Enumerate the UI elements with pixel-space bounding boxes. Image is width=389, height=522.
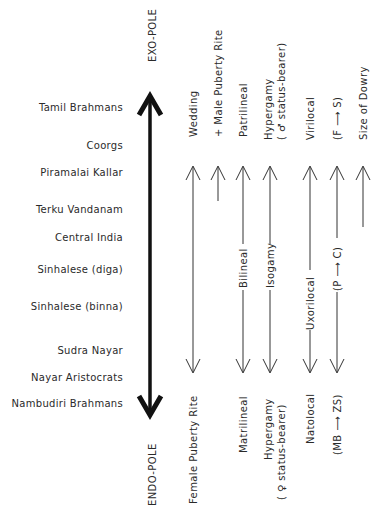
column-middle-label: Uxorilocal bbox=[305, 277, 316, 330]
column-top-label: + Male Puberty Rite bbox=[213, 29, 224, 137]
column-bottom-label: Natolocal bbox=[305, 393, 316, 444]
column-top-label: Virilocal bbox=[305, 97, 316, 140]
endo-pole-label: ENDO-POLE bbox=[147, 443, 158, 506]
column-wedding bbox=[186, 166, 200, 373]
column-bottom-label: Hypergamy bbox=[263, 398, 274, 460]
group-label: Central India bbox=[55, 232, 123, 243]
group-label: Sinhalese (diga) bbox=[37, 264, 123, 275]
group-labels: Tamil Brahmans Coorgs Piramalai Kallar T… bbox=[12, 102, 124, 409]
column-bottom-label: (MB ⟶ ZS) bbox=[332, 394, 343, 455]
exo-pole-label: EXO-POLE bbox=[147, 9, 158, 62]
column-top-sublabel: ( ♂ status-bearer) bbox=[276, 43, 287, 140]
column-top-label: Size of Dowry bbox=[358, 66, 369, 140]
column-residence bbox=[303, 166, 317, 373]
main-axis-arrow bbox=[139, 96, 161, 415]
group-label: Tamil Brahmans bbox=[38, 102, 123, 113]
group-label: Sinhalese (binna) bbox=[31, 301, 123, 312]
group-label: Piramalai Kallar bbox=[40, 167, 123, 178]
column-bottom-sublabel: ( ♀ status-bearer) bbox=[276, 404, 287, 500]
column-middle-label: (P ⟶ C) bbox=[332, 247, 343, 291]
column-top-label: Wedding bbox=[188, 91, 199, 137]
group-label: Nayar Aristocrats bbox=[31, 372, 123, 383]
group-label: Terku Vandanam bbox=[35, 204, 123, 215]
group-label: Coorgs bbox=[86, 140, 123, 151]
group-label: Sudra Nayar bbox=[57, 345, 123, 356]
column-middle-label: Bilineal bbox=[238, 248, 249, 288]
column-bottom-label: Female Puberty Rite bbox=[188, 395, 199, 504]
column-top-label: Hypergamy bbox=[263, 78, 274, 140]
column-top-label: Patrilineal bbox=[238, 83, 249, 137]
column-dowry bbox=[356, 166, 370, 227]
exo-endo-diagram: EXO-POLE ENDO-POLE Tamil Brahmans Coorgs… bbox=[0, 0, 389, 522]
column-middle-label: Isogamy bbox=[265, 243, 276, 288]
group-label: Nambudiri Brahmans bbox=[12, 398, 123, 409]
column-top-label: (F ⟶ S) bbox=[332, 97, 343, 140]
column-bottom-label: Matrilineal bbox=[238, 396, 249, 453]
column-male-puberty bbox=[211, 166, 225, 201]
